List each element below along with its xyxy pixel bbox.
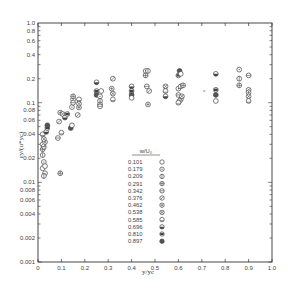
legend-items: 0.1010.1790.2090.2910.3420.3760.4620.538… bbox=[128, 159, 164, 244]
y-axis-label: εy/(u*yc) bbox=[17, 131, 25, 158]
data-point bbox=[70, 123, 75, 128]
legend-item: 0.810 bbox=[128, 231, 164, 237]
legend-title: w/U₀ bbox=[139, 148, 153, 154]
legend-item: 0.538 bbox=[128, 209, 164, 215]
legend: w/U₀ 0.1010.1790.2090.2910.3420.3760.462… bbox=[128, 148, 164, 244]
data-point bbox=[237, 83, 242, 88]
data-point bbox=[71, 100, 76, 105]
data-point bbox=[45, 123, 50, 128]
data-point bbox=[163, 84, 168, 89]
data-point bbox=[213, 87, 218, 92]
data-point bbox=[213, 99, 218, 104]
data-point bbox=[98, 94, 103, 99]
data-point bbox=[40, 153, 45, 158]
data-point bbox=[237, 76, 242, 81]
data-point bbox=[41, 137, 46, 142]
data-point bbox=[129, 84, 134, 89]
data-point bbox=[75, 113, 80, 118]
legend-item-label: 0.376 bbox=[128, 195, 143, 201]
legend-item-label: 0.462 bbox=[128, 202, 143, 208]
y-tick-label: 0.2 bbox=[27, 76, 36, 82]
data-point bbox=[246, 73, 251, 78]
data-point bbox=[176, 100, 181, 105]
x-tick-label: 1.0 bbox=[268, 265, 277, 271]
plot-frame bbox=[38, 23, 272, 262]
legend-item-label: 0.538 bbox=[128, 209, 143, 215]
y-tick-label: 0.6 bbox=[27, 38, 36, 44]
data-point bbox=[65, 112, 70, 117]
x-axis-label: y/yc bbox=[142, 268, 154, 276]
x-tick-label: 0.9 bbox=[244, 265, 253, 271]
data-point bbox=[70, 105, 75, 110]
data-point bbox=[213, 93, 218, 98]
data-point bbox=[109, 86, 114, 91]
data-point bbox=[98, 104, 103, 109]
x-tick-label: 0.1 bbox=[57, 265, 66, 271]
legend-item: 0.179 bbox=[128, 166, 164, 172]
data-point bbox=[71, 94, 76, 99]
data-point bbox=[55, 136, 60, 141]
legend-item: 0.696 bbox=[128, 224, 164, 230]
y-tick-label: 0.04 bbox=[23, 131, 35, 137]
data-point bbox=[110, 76, 115, 81]
data-point bbox=[163, 89, 168, 94]
y-tick-label: 0.001 bbox=[20, 259, 36, 265]
legend-item-label: 0.897 bbox=[128, 238, 143, 244]
y-tick-label: 0.006 bbox=[20, 197, 36, 203]
data-point bbox=[237, 67, 242, 72]
data-point bbox=[143, 73, 148, 78]
x-tick-label: 0 bbox=[36, 265, 40, 271]
legend-item-label: 0.209 bbox=[128, 173, 143, 179]
y-axis-ticks: 1.00.80.60.40.20.10.080.060.040.020.010.… bbox=[20, 20, 272, 265]
legend-item: 0.342 bbox=[128, 188, 164, 194]
data-point bbox=[147, 89, 152, 94]
x-tick-label: 0.3 bbox=[104, 265, 113, 271]
data-point bbox=[178, 71, 183, 76]
data-point bbox=[99, 89, 104, 94]
y-tick-label: 0.02 bbox=[23, 155, 35, 161]
y-tick-label: 0.4 bbox=[27, 52, 36, 58]
data-point bbox=[41, 174, 46, 179]
data-point bbox=[43, 164, 48, 169]
x-tick-label: 0.4 bbox=[127, 265, 136, 271]
data-point bbox=[77, 97, 82, 102]
data-point bbox=[58, 171, 63, 176]
legend-item: 0.101 bbox=[128, 159, 164, 165]
y-tick-label: 0.008 bbox=[20, 187, 36, 193]
y-tick-label: 0.08 bbox=[23, 107, 35, 113]
legend-item-label: 0.101 bbox=[128, 159, 143, 165]
legend-item: 0.376 bbox=[128, 195, 164, 201]
legend-item-label: 0.696 bbox=[128, 224, 143, 230]
y-tick-label: 0.01 bbox=[23, 179, 35, 185]
data-point bbox=[59, 130, 64, 135]
data-point bbox=[246, 99, 251, 104]
data-point bbox=[57, 119, 62, 124]
legend-item: 0.897 bbox=[128, 238, 164, 244]
x-tick-label: 0.8 bbox=[221, 265, 230, 271]
data-point bbox=[246, 94, 251, 99]
y-tick-label: 0.8 bbox=[27, 28, 36, 34]
data-points bbox=[40, 67, 251, 178]
y-tick-label: 0.1 bbox=[27, 100, 36, 106]
data-point bbox=[94, 80, 99, 85]
data-point bbox=[181, 83, 186, 88]
legend-item: 0.291 bbox=[128, 181, 164, 187]
legend-item: 0.585 bbox=[128, 217, 164, 223]
x-tick-label: 0.6 bbox=[174, 265, 183, 271]
data-point bbox=[129, 95, 134, 100]
data-point bbox=[180, 94, 185, 99]
legend-item-label: 0.291 bbox=[128, 181, 143, 187]
y-tick-label: 0.06 bbox=[23, 117, 35, 123]
y-tick-label: 1.0 bbox=[27, 20, 36, 26]
data-point bbox=[110, 91, 115, 96]
data-point bbox=[163, 94, 168, 99]
data-point bbox=[146, 102, 151, 107]
legend-item-label: 0.179 bbox=[128, 166, 143, 172]
legend-item-label: 0.810 bbox=[128, 231, 143, 237]
x-tick-label: 0.2 bbox=[81, 265, 90, 271]
legend-item-label: 0.342 bbox=[128, 188, 143, 194]
scatter-chart: 00.10.20.30.40.50.60.70.80.91.0 1.00.80.… bbox=[0, 0, 288, 290]
x-axis-ticks: 00.10.20.30.40.50.60.70.80.91.0 bbox=[36, 23, 277, 271]
y-tick-label: 0.004 bbox=[20, 211, 36, 217]
data-point bbox=[213, 71, 218, 76]
